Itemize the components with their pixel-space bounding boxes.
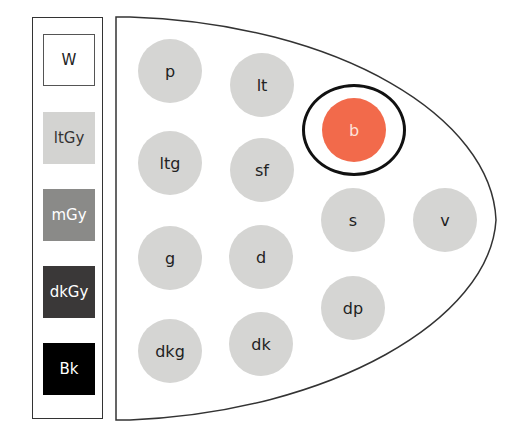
dot-s[interactable]: s — [321, 188, 385, 252]
dot-lt[interactable]: lt — [230, 53, 294, 117]
dot-sf[interactable]: sf — [230, 138, 294, 202]
dot-label: s — [349, 211, 357, 230]
dot-label: sf — [255, 161, 269, 180]
dot-label: lt — [257, 76, 268, 95]
dot-ltg[interactable]: ltg — [138, 131, 202, 195]
dot-p[interactable]: p — [138, 39, 202, 103]
dot-b[interactable]: b — [322, 98, 386, 162]
dot-label: v — [440, 211, 449, 230]
dot-label: ltg — [160, 154, 181, 173]
dot-dp[interactable]: dp — [321, 276, 385, 340]
dot-label: dk — [251, 335, 270, 354]
dot-dkg[interactable]: dkg — [138, 319, 202, 383]
dot-d[interactable]: d — [229, 225, 293, 289]
dot-label: d — [256, 248, 266, 267]
dot-label: dp — [343, 299, 363, 318]
dot-label: b — [349, 121, 359, 140]
dot-label: dkg — [155, 342, 185, 361]
dot-v[interactable]: v — [413, 188, 477, 252]
dot-dk[interactable]: dk — [229, 312, 293, 376]
dot-g[interactable]: g — [138, 226, 202, 290]
dot-label: p — [165, 62, 175, 81]
dot-label: g — [165, 249, 175, 268]
